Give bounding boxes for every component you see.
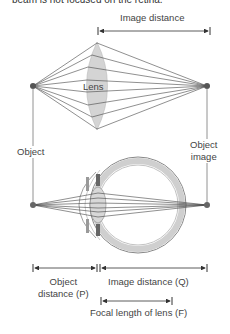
object-point-bottom [30, 202, 36, 208]
image-distance-top-label: Image distance [120, 12, 184, 24]
focal-length-label: Focal length of lens (F) [90, 307, 187, 319]
object-distance-dimension [33, 264, 97, 272]
image-distance-q-dimension [100, 264, 207, 272]
object-distance-label: Object distance (P) [38, 276, 89, 300]
lens-rays [33, 43, 207, 129]
eye-diagram [79, 157, 186, 253]
focal-length-dimension [101, 297, 172, 305]
object-label: Object [16, 146, 45, 158]
image-point-bottom [204, 202, 210, 208]
object-image-label: Object image [190, 139, 217, 163]
image-distance-top-dimension [98, 27, 210, 35]
image-distance-q-label: Image distance (Q) [108, 276, 189, 288]
lens-label: Lens [83, 81, 104, 93]
